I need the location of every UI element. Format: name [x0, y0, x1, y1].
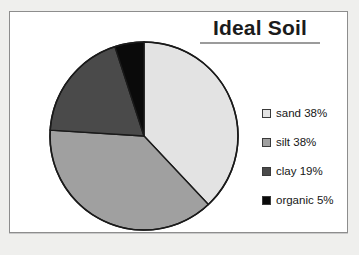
legend-item-organic[interactable]: organic 5% — [262, 188, 358, 212]
legend: sand 38% silt 38% clay 19% organic 5% — [262, 101, 358, 217]
chart-frame: Ideal Soil sand 38% silt 38% clay 19% — [9, 11, 348, 233]
legend-label-sand: sand 38% — [276, 107, 327, 119]
legend-swatch-clay — [262, 167, 271, 176]
legend-swatch-silt — [262, 138, 271, 147]
pie-chart — [41, 33, 247, 239]
legend-swatch-sand — [262, 109, 271, 118]
chart-page: Ideal Soil sand 38% silt 38% clay 19% — [0, 0, 359, 255]
legend-item-clay[interactable]: clay 19% — [262, 159, 358, 183]
legend-label-silt: silt 38% — [276, 136, 316, 148]
pie-slices — [50, 42, 238, 230]
legend-item-sand[interactable]: sand 38% — [262, 101, 358, 125]
legend-swatch-organic — [262, 196, 271, 205]
legend-label-clay: clay 19% — [276, 165, 323, 177]
pie-svg — [41, 33, 247, 239]
legend-item-silt[interactable]: silt 38% — [262, 130, 358, 154]
legend-label-organic: organic 5% — [276, 194, 334, 206]
